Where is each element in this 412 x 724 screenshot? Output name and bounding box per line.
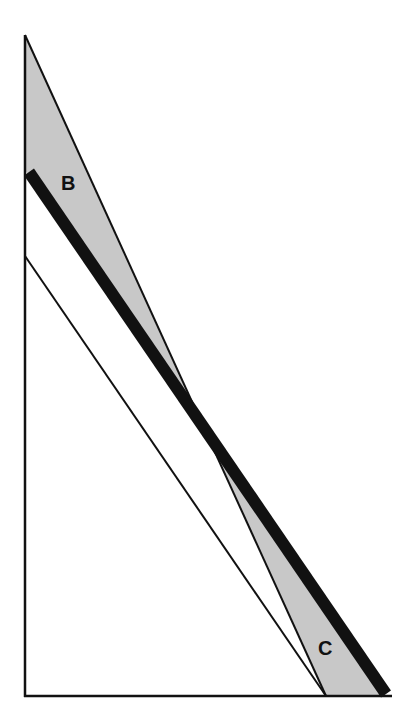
label-region-c: C [318, 637, 332, 659]
area-diagram: B C [0, 0, 412, 724]
steep-line [25, 35, 326, 696]
thin-line [25, 256, 326, 696]
thick-line [29, 172, 386, 694]
label-region-b: B [61, 172, 75, 194]
